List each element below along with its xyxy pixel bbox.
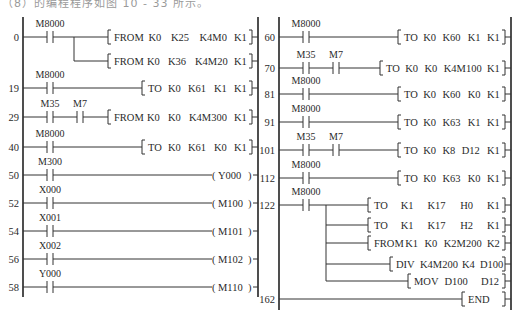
instruction-operand: K1 bbox=[487, 220, 500, 231]
instruction-operand: K60 bbox=[443, 89, 461, 100]
instr-open-bracket-icon bbox=[368, 198, 371, 212]
contact-label: M7 bbox=[329, 131, 343, 142]
contact-label: M8000 bbox=[36, 18, 65, 29]
coil-open-paren-icon: ( bbox=[212, 170, 216, 182]
instruction-operand: D12 bbox=[462, 145, 480, 156]
coil-label: M110 bbox=[218, 282, 243, 293]
instr-open-bracket-icon bbox=[390, 257, 393, 271]
step-number: 54 bbox=[9, 226, 20, 237]
instruction-operand: K1 bbox=[487, 32, 500, 43]
instr-close-bracket-icon bbox=[502, 115, 505, 129]
coil-close-paren-icon: ) bbox=[248, 254, 252, 266]
instruction-operand: K0 bbox=[423, 32, 436, 43]
instruction-operand: K1 bbox=[487, 117, 500, 128]
instruction-operand: K4M20 bbox=[195, 56, 228, 67]
instr-close-bracket-icon bbox=[502, 171, 505, 185]
instr-close-bracket-icon bbox=[249, 110, 252, 124]
instr-open-bracket-icon bbox=[108, 54, 111, 68]
instruction-mnemonic: TO bbox=[148, 83, 162, 94]
instr-close-bracket-icon bbox=[249, 30, 252, 44]
instr-close-bracket-icon bbox=[249, 140, 252, 154]
instruction-operand: K60 bbox=[443, 32, 461, 43]
instruction-operand: K0 bbox=[468, 173, 481, 184]
instr-close-bracket-icon bbox=[249, 81, 252, 95]
instr-open-bracket-icon bbox=[408, 274, 411, 288]
instr-close-bracket-icon bbox=[502, 236, 505, 250]
instruction-operand: K0 bbox=[423, 89, 436, 100]
instr-close-bracket-icon bbox=[249, 54, 252, 68]
instruction-operand: K61 bbox=[188, 142, 206, 153]
instruction-operand: K1 bbox=[401, 200, 414, 211]
step-number: 60 bbox=[265, 32, 276, 43]
instruction-operand: K2 bbox=[487, 238, 500, 249]
instruction-operand: K1 bbox=[487, 200, 500, 211]
instruction-mnemonic: TO bbox=[404, 32, 418, 43]
coil-open-paren-icon: ( bbox=[212, 226, 216, 238]
instruction-operand: K1 bbox=[405, 238, 418, 249]
instr-open-bracket-icon bbox=[398, 115, 401, 129]
step-number: 0 bbox=[14, 32, 19, 43]
instruction-operand: K61 bbox=[188, 83, 206, 94]
instr-open-bracket-icon bbox=[142, 140, 145, 154]
instruction-operand: K1 bbox=[234, 112, 247, 123]
instruction-mnemonic: TO bbox=[404, 145, 418, 156]
instruction-operand: K0 bbox=[425, 238, 438, 249]
instr-close-bracket-icon bbox=[502, 143, 505, 157]
instruction-operand: D12 bbox=[481, 276, 499, 287]
instr-open-bracket-icon bbox=[368, 218, 371, 232]
instr-close-bracket-icon bbox=[502, 30, 505, 44]
step-number: 40 bbox=[9, 142, 20, 153]
instruction-operand: K1 bbox=[468, 32, 481, 43]
contact-label: M8000 bbox=[292, 75, 321, 86]
instr-close-bracket-icon bbox=[502, 87, 505, 101]
ladder-diagram: 0M8000FROMK0K25K4M0K1FROMK0K36K4M20K119M… bbox=[0, 0, 525, 321]
coil-close-paren-icon: ) bbox=[248, 226, 252, 238]
instr-open-bracket-icon bbox=[108, 30, 111, 44]
instruction-operand: K0 bbox=[214, 142, 227, 153]
instr-open-bracket-icon bbox=[108, 110, 111, 124]
instruction-mnemonic: TO bbox=[374, 220, 388, 231]
contact-label: X002 bbox=[39, 240, 61, 251]
instruction-operand: K1 bbox=[214, 83, 227, 94]
step-number: 56 bbox=[9, 254, 20, 265]
instruction-operand: K1 bbox=[468, 117, 481, 128]
contact-label: M7 bbox=[73, 98, 87, 109]
instruction-operand: K1 bbox=[487, 63, 500, 74]
instruction-operand: K0 bbox=[423, 173, 436, 184]
instruction-operand: K1 bbox=[234, 142, 247, 153]
step-number: 50 bbox=[9, 170, 20, 181]
coil-label: M100 bbox=[218, 198, 243, 209]
instruction-operand: K63 bbox=[443, 173, 461, 184]
instruction-mnemonic: DIV bbox=[396, 259, 415, 270]
instr-open-bracket-icon bbox=[398, 171, 401, 185]
instruction-operand: K4 bbox=[462, 259, 476, 270]
instr-close-bracket-icon bbox=[502, 218, 505, 232]
contact-label: M8000 bbox=[292, 186, 321, 197]
instruction-mnemonic: TO bbox=[148, 142, 162, 153]
instruction-operand: K0 bbox=[149, 32, 162, 43]
contact-label: M300 bbox=[38, 156, 62, 167]
contact-label: Y000 bbox=[39, 268, 61, 279]
instr-open-bracket-icon bbox=[398, 143, 401, 157]
instruction-operand: K1 bbox=[401, 220, 414, 231]
instruction-operand: K1 bbox=[234, 83, 247, 94]
instruction-operand: K8 bbox=[443, 145, 456, 156]
contact-label: M7 bbox=[329, 49, 343, 60]
instruction-operand: K63 bbox=[443, 117, 461, 128]
contact-label: M8000 bbox=[292, 103, 321, 114]
instruction-operand: D100 bbox=[480, 259, 503, 270]
step-number: 81 bbox=[265, 89, 276, 100]
instruction-operand: K17 bbox=[428, 200, 446, 211]
instruction-mnemonic: FROM bbox=[114, 56, 144, 67]
step-number: 58 bbox=[9, 282, 20, 293]
coil-label: M102 bbox=[218, 254, 243, 265]
step-number: 52 bbox=[9, 198, 20, 209]
instr-open-bracket-icon bbox=[368, 236, 371, 250]
step-number: 70 bbox=[265, 63, 276, 74]
instruction-operand: K0 bbox=[423, 117, 436, 128]
instr-open-bracket-icon bbox=[398, 30, 401, 44]
step-number: 162 bbox=[259, 294, 275, 305]
step-number: 19 bbox=[9, 83, 20, 94]
contact-label: M35 bbox=[297, 49, 316, 60]
instruction-mnemonic: MOV bbox=[414, 276, 439, 287]
